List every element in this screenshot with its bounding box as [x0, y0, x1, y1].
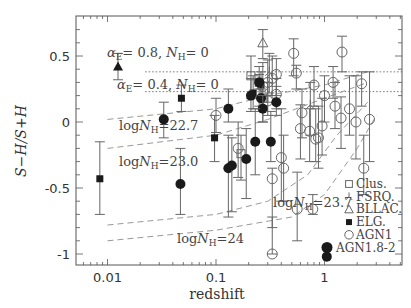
filled-square-icon: [178, 95, 185, 102]
filled-square-icon: [96, 175, 103, 182]
x-tick-label: 1: [320, 270, 328, 285]
filled-square-icon: [346, 219, 352, 225]
filled-square-icon: [211, 134, 218, 141]
y-tick-label: 0: [62, 115, 70, 130]
y-tick-label: -0.5: [45, 181, 70, 196]
filled-circle-icon: [250, 137, 260, 147]
filled-circle-icon: [175, 179, 185, 189]
filled-circle-icon: [256, 93, 266, 103]
x-tick-label: 0.01: [93, 270, 122, 285]
filled-circle-icon: [322, 242, 333, 253]
x-tick-label: 0.1: [206, 270, 227, 285]
filled-circle-icon: [254, 77, 264, 87]
annotation-lognh-22.7: logNH=22.7: [119, 118, 198, 135]
filled-circle-icon: [322, 252, 332, 262]
scatter-chart: 0.010.110.50-0.5-1 αE= 0.8, NH= 0 αE= 0.…: [0, 0, 411, 308]
filled-circle-icon: [223, 104, 233, 114]
y-tick-label: 0.5: [49, 49, 70, 64]
filled-circle-icon: [241, 154, 251, 164]
legend-label: AGN1.8-2: [335, 241, 396, 255]
x-axis-title: redshift: [189, 286, 245, 302]
filled-circle-icon: [266, 137, 276, 147]
y-axis-title: S−H/S+H: [13, 104, 29, 177]
y-tick-label: -1: [57, 247, 70, 262]
annotation-alpha-0.4: αE= 0.4, NH= 0: [117, 77, 219, 94]
filled-circle-icon: [271, 97, 281, 107]
annotation-alpha-0.8: αE= 0.8, NH= 0: [107, 45, 209, 62]
annotation-lognh-23.0: logNH=23.0: [119, 154, 198, 171]
annotation-lognh-23.7: logNH=23.7: [273, 195, 352, 212]
filled-circle-icon: [246, 91, 256, 101]
filled-circle-icon: [227, 161, 237, 171]
